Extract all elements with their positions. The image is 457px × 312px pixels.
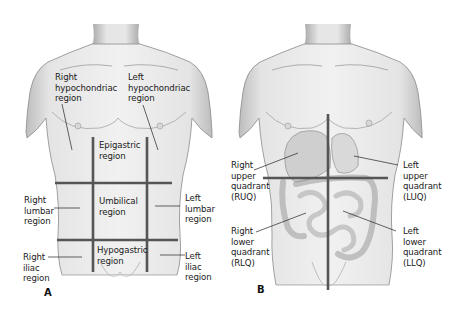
neck-a	[92, 24, 140, 45]
nipple-icon	[157, 123, 163, 129]
label-ruq: Right upper quadrant (RUQ)	[231, 160, 269, 202]
panel-label-a: A	[44, 287, 52, 298]
label-rlq: Right lower quadrant (RLQ)	[231, 226, 269, 268]
label-hypogastric: Hypogastric region	[97, 245, 147, 266]
abdominal-regions-diagram	[0, 0, 457, 312]
neck-b	[304, 24, 352, 45]
label-right-hypochondriac: Right hypochondriac region	[55, 72, 117, 104]
nipple-icon	[75, 123, 81, 129]
label-epigastric: Epigastric region	[99, 140, 141, 161]
nipple-icon	[366, 120, 372, 126]
label-luq: Left upper quadrant (LUQ)	[403, 160, 441, 202]
panel-label-b: B	[257, 284, 265, 295]
label-left-iliac: Left iliac region	[185, 251, 212, 283]
nipple-icon	[285, 123, 291, 129]
label-left-hypochondriac: Left hypochondriac region	[128, 72, 190, 104]
label-left-lumbar: Left lumbar region	[185, 193, 215, 225]
label-llq: Left lower quadrant (LLQ)	[403, 226, 441, 268]
label-right-iliac: Right iliac region	[23, 252, 50, 284]
label-umbilical: Umbilical region	[99, 196, 138, 217]
label-right-lumbar: Right lumbar region	[24, 195, 54, 227]
